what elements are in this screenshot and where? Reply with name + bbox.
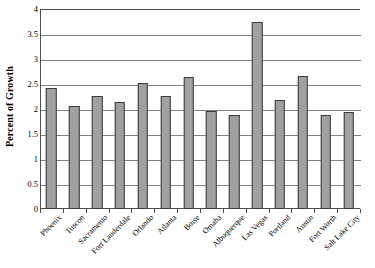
bar bbox=[115, 102, 126, 209]
y-tick-label: 3.5 bbox=[2, 30, 38, 39]
bars-layer bbox=[40, 9, 360, 209]
bar-slot bbox=[131, 9, 154, 209]
bar-slot bbox=[154, 9, 177, 209]
x-tick-label: Orlando bbox=[130, 213, 155, 238]
bar bbox=[229, 115, 240, 210]
y-tick-label: 1 bbox=[2, 155, 38, 164]
bar bbox=[275, 100, 286, 209]
y-tick-label: 2 bbox=[2, 105, 38, 114]
y-tick-label: 2.5 bbox=[2, 80, 38, 89]
bar bbox=[46, 88, 57, 210]
x-tick-label: Phoenix bbox=[39, 213, 64, 238]
y-axis-tick-labels: 00.511.522.533.54 bbox=[0, 9, 38, 209]
y-tick-label: 1.5 bbox=[2, 130, 38, 139]
bar bbox=[69, 106, 80, 210]
bar bbox=[92, 96, 103, 209]
bar-slot bbox=[86, 9, 109, 209]
bar bbox=[252, 22, 263, 210]
bar-slot bbox=[63, 9, 86, 209]
y-tick-label: 3 bbox=[2, 55, 38, 64]
bar-slot bbox=[200, 9, 223, 209]
y-tick-label: 0.5 bbox=[2, 180, 38, 189]
bar bbox=[183, 77, 194, 209]
bar bbox=[343, 112, 354, 209]
bar-slot bbox=[177, 9, 200, 209]
bar-slot bbox=[40, 9, 63, 209]
x-tick-label: Boise bbox=[182, 213, 201, 232]
bar bbox=[160, 96, 171, 209]
bar-slot bbox=[314, 9, 337, 209]
bar-slot bbox=[246, 9, 269, 209]
bar bbox=[298, 76, 309, 209]
bar-slot bbox=[291, 9, 314, 209]
bar bbox=[138, 83, 149, 209]
x-tick bbox=[360, 209, 361, 213]
bar-slot bbox=[109, 9, 132, 209]
bar-slot bbox=[337, 9, 360, 209]
y-tick-label: 0 bbox=[2, 205, 38, 214]
bar-slot bbox=[269, 9, 292, 209]
x-tick-label: Portland bbox=[267, 213, 293, 239]
bar-slot bbox=[223, 9, 246, 209]
bar bbox=[320, 115, 331, 209]
x-tick-label: Atlanta bbox=[155, 213, 178, 236]
bar-chart: Percent of Growth 00.511.522.533.54 Phoe… bbox=[0, 0, 375, 268]
bar bbox=[206, 111, 217, 209]
x-axis-tick-labels: PhoenixTusconSacramentoFort LauderdaleOr… bbox=[40, 213, 360, 268]
y-tick-label: 4 bbox=[2, 5, 38, 14]
